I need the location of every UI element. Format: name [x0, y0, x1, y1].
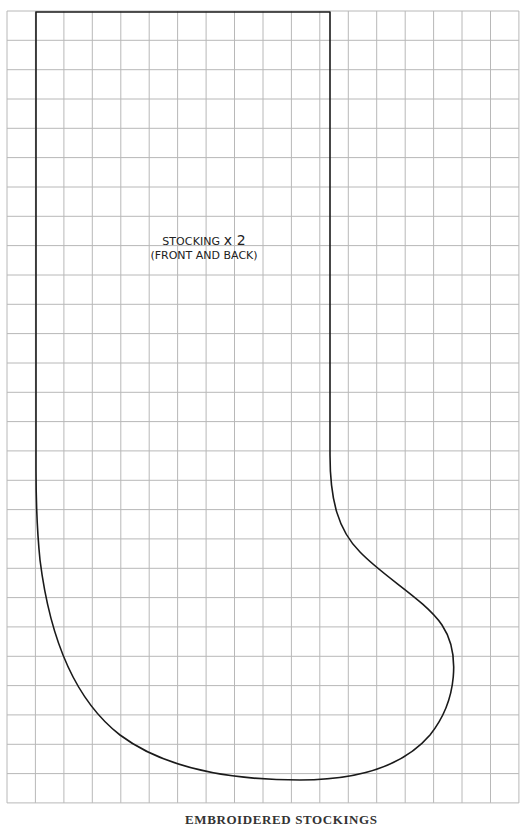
- piece-sub-label: (FRONT AND BACK): [130, 249, 278, 262]
- page-caption: EMBROIDERED STOCKINGS: [185, 812, 378, 828]
- grid-lines: [7, 11, 519, 803]
- stocking-outline: [36, 12, 454, 780]
- piece-label: STOCKING x 2: [130, 232, 278, 248]
- piece-quantity: x 2: [224, 232, 246, 248]
- piece-name: STOCKING: [162, 235, 220, 248]
